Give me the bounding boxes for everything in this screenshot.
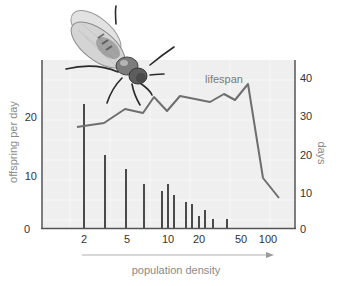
svg-text:20: 20: [300, 149, 312, 161]
svg-text:5: 5: [124, 233, 130, 245]
x-arrow: [82, 252, 274, 258]
right-tick-labels: 0 10 20 30 40: [300, 72, 312, 235]
svg-text:10: 10: [300, 187, 312, 199]
svg-text:40: 40: [300, 72, 312, 84]
svg-text:10: 10: [162, 233, 174, 245]
x-axis-label: population density: [132, 264, 221, 276]
svg-text:20: 20: [193, 233, 205, 245]
y-axis-label-left: offspring per day: [7, 101, 19, 183]
svg-text:0: 0: [300, 223, 306, 235]
svg-text:2: 2: [81, 233, 87, 245]
svg-text:30: 30: [300, 110, 312, 122]
chart: lifespan 0 10 20 0 10 20 30 40 2 5 10 20…: [0, 0, 340, 286]
svg-text:10: 10: [25, 170, 37, 182]
svg-text:0: 0: [24, 223, 30, 235]
svg-text:50: 50: [235, 233, 247, 245]
left-tick-labels: 0 10 20: [24, 111, 37, 235]
svg-text:20: 20: [25, 111, 37, 123]
svg-text:100: 100: [259, 233, 277, 245]
lifespan-label: lifespan: [205, 73, 243, 85]
x-tick-labels: 2 5 10 20 50 100: [81, 233, 277, 245]
y-axis-label-right: days: [316, 141, 328, 165]
